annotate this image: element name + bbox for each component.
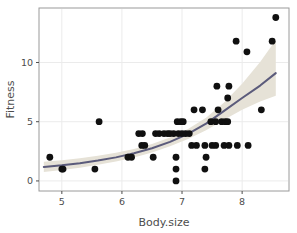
y-axis-title: Fitness <box>4 80 17 118</box>
data-point <box>224 118 231 125</box>
data-point <box>233 38 240 45</box>
data-point <box>234 142 241 149</box>
data-point <box>203 154 210 161</box>
data-point <box>46 154 53 161</box>
y-tick-label: 10 <box>21 57 33 68</box>
data-point <box>191 106 198 113</box>
data-point <box>245 142 252 149</box>
chart-figure: 5678 0510 Body.size Fitness <box>0 0 297 233</box>
data-point <box>201 142 208 149</box>
y-tick-label: 0 <box>27 175 33 186</box>
x-tick-label: 5 <box>59 196 65 207</box>
data-point <box>226 83 233 90</box>
x-tick-label: 7 <box>179 196 185 207</box>
y-tick-label: 5 <box>27 116 33 127</box>
data-point <box>180 118 187 125</box>
data-point <box>141 142 148 149</box>
data-point <box>258 106 265 113</box>
data-point <box>199 106 206 113</box>
data-point <box>213 83 220 90</box>
data-point <box>173 166 180 173</box>
data-point <box>226 142 233 149</box>
data-point <box>96 118 103 125</box>
x-tick-labels: 5678 <box>59 196 245 207</box>
data-point <box>193 142 200 149</box>
data-point <box>212 142 219 149</box>
x-tick-label: 6 <box>119 196 125 207</box>
y-tick-labels: 0510 <box>21 57 33 186</box>
data-point <box>215 106 222 113</box>
data-point <box>244 48 251 55</box>
data-point <box>128 154 135 161</box>
x-axis-title: Body.size <box>138 216 189 229</box>
data-point <box>224 95 231 102</box>
data-point <box>201 166 208 173</box>
data-point <box>173 178 180 185</box>
data-point <box>91 166 98 173</box>
scatter-plot-svg: 5678 0510 Body.size Fitness <box>0 0 297 233</box>
data-point <box>212 118 219 125</box>
data-point <box>186 130 193 137</box>
data-point <box>150 154 157 161</box>
data-point <box>269 38 276 45</box>
data-point <box>272 14 279 21</box>
x-tick-label: 8 <box>239 196 245 207</box>
data-point <box>139 130 146 137</box>
data-point <box>173 154 180 161</box>
data-point <box>60 166 67 173</box>
